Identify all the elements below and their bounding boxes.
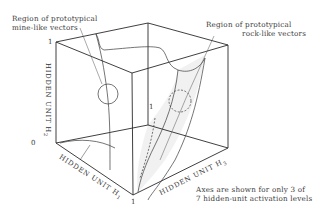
mine-region-label-line2: mine-like vectors	[12, 24, 78, 32]
h3-max-tick: 1	[149, 103, 153, 111]
h2-max-tick: 1	[48, 38, 52, 46]
rock-region-label-line2: rock-like vectors	[242, 30, 306, 38]
note-line2: 7 hidden-unit activation levels	[196, 195, 312, 203]
note-line1: Axes are shown for only 3 of	[196, 186, 305, 194]
axis-h2-label: HIDDEN UNIT H2	[43, 63, 52, 137]
rock-region-label-line1: Region of prototypical	[206, 21, 292, 29]
origin-tick: 0	[31, 139, 35, 147]
h1-max-tick: 1	[131, 198, 135, 206]
mine-region-label-line1: Region of prototypical	[12, 15, 98, 23]
